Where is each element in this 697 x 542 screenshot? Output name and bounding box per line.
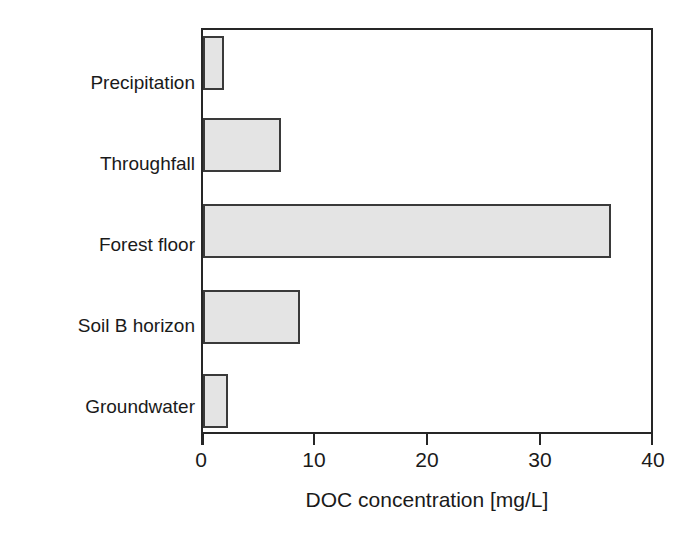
bar-throughfall[interactable] (203, 118, 281, 172)
x-axis: 0 10 20 30 40 (201, 434, 653, 480)
category-label-precipitation: Precipitation (10, 73, 195, 92)
x-tick-mark-10 (313, 434, 316, 445)
bar-forest-floor[interactable] (203, 204, 611, 258)
category-axis-labels: Precipitation Throughfall Forest floor S… (0, 28, 195, 434)
x-tick-label-20: 20 (415, 448, 438, 472)
x-axis-title: DOC concentration [mg/L] (201, 487, 653, 512)
x-tick-mark-20 (426, 434, 429, 445)
category-label-soil-b-horizon: Soil B horizon (10, 316, 195, 335)
category-label-forest-floor: Forest floor (10, 235, 195, 254)
category-label-throughfall: Throughfall (10, 154, 195, 173)
x-tick-mark-40 (651, 434, 654, 445)
bar-groundwater[interactable] (203, 374, 228, 428)
x-tick-mark-30 (539, 434, 542, 445)
x-tick-label-0: 0 (195, 448, 207, 472)
bar-soil-b-horizon[interactable] (203, 290, 300, 344)
bar-chart-figure: Precipitation Throughfall Forest floor S… (0, 0, 697, 542)
x-tick-label-40: 40 (641, 448, 664, 472)
x-tick-label-30: 30 (528, 448, 551, 472)
x-tick-mark-0 (201, 434, 204, 445)
category-label-groundwater: Groundwater (10, 397, 195, 416)
x-tick-label-10: 10 (302, 448, 325, 472)
bar-precipitation[interactable] (203, 36, 224, 90)
plot-area (201, 28, 653, 434)
